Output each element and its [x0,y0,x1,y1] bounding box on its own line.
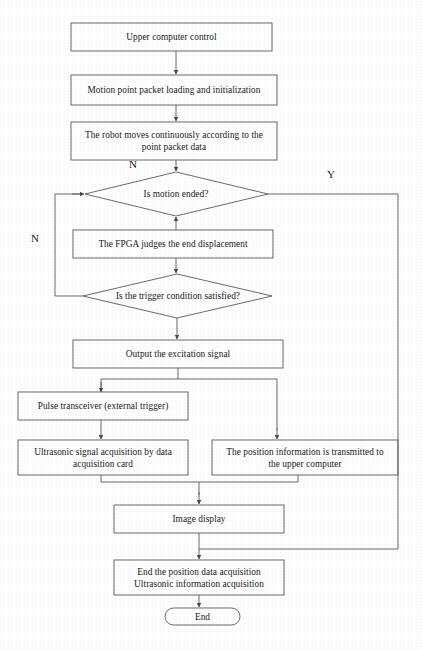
node-shape-n5 [73,230,273,258]
flowchart-diagram: Upper computer control Motion point pack… [0,0,422,650]
node-shape-n8 [18,392,188,420]
node-shape-n3 [71,122,277,160]
branch-label-n6-no: N [31,232,39,244]
edge-merge-to-n11 [101,475,298,495]
node-shape-n6 [83,274,272,318]
node-shape-n9 [18,440,188,475]
node-shape-n11 [114,505,284,533]
branch-label-n4-yes: Y [327,168,335,180]
node-shape-n1 [71,23,272,51]
node-shape-n4 [85,172,268,216]
branch-label-n4-no: N [129,158,137,170]
node-shape-n7 [73,340,283,368]
edge-n7-split-right [178,379,277,430]
node-shape-n13 [165,608,240,625]
node-shape-n12 [114,560,284,595]
flowchart-canvas [0,0,422,650]
node-shape-n2 [71,75,277,105]
node-shape-n10 [212,440,398,475]
edge-n7-split [101,368,178,391]
